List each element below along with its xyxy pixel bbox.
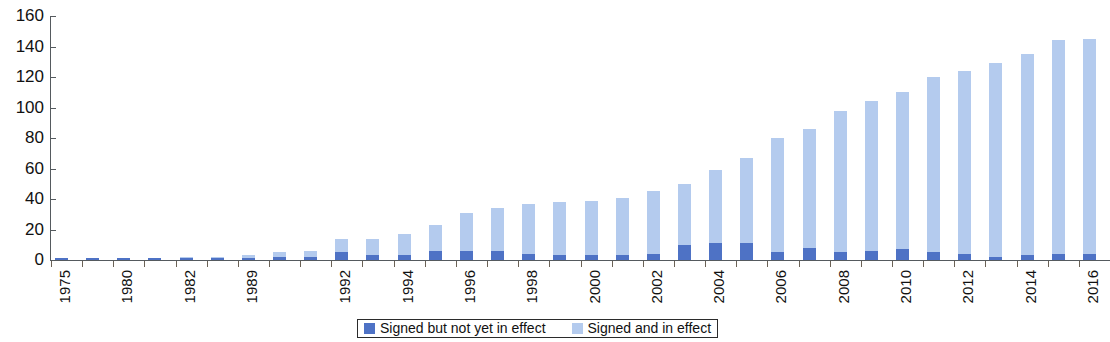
bar-segment-signed-in-effect	[522, 204, 535, 254]
x-axis-tick	[144, 261, 145, 267]
bar-group[interactable]	[740, 158, 753, 260]
x-axis-tick	[612, 261, 613, 267]
bar-group[interactable]	[958, 71, 971, 260]
bar-group[interactable]	[491, 208, 504, 260]
bar-group[interactable]	[1052, 40, 1065, 260]
x-axis-tick	[985, 261, 986, 267]
bar-group[interactable]	[460, 213, 473, 260]
bar-group[interactable]	[989, 63, 1002, 260]
bar-segment-signed-not-in-effect	[771, 252, 784, 260]
x-axis-tick	[1079, 261, 1080, 267]
bar-group[interactable]	[553, 202, 566, 260]
bar-group[interactable]	[398, 234, 411, 260]
bar-segment-signed-in-effect	[491, 208, 504, 251]
x-axis-tick-label: 1980	[119, 270, 134, 303]
bar-segment-signed-in-effect	[335, 239, 348, 253]
bar-segment-signed-not-in-effect	[803, 248, 816, 260]
x-axis-tick	[1048, 261, 1049, 267]
bar-segment-signed-not-in-effect	[834, 252, 847, 260]
x-axis-tick	[331, 261, 332, 267]
bar-segment-signed-in-effect	[927, 77, 940, 252]
bar-group[interactable]	[709, 170, 722, 260]
bar-segment-signed-in-effect	[803, 129, 816, 248]
bar-group[interactable]	[896, 92, 909, 260]
bar-group[interactable]	[335, 239, 348, 260]
bar-segment-signed-in-effect	[647, 191, 660, 254]
bar-segment-signed-in-effect	[834, 111, 847, 253]
x-axis-tick	[238, 261, 239, 267]
x-axis-tick-label: 2004	[711, 270, 726, 303]
bar-segment-signed-not-in-effect	[709, 243, 722, 260]
legend-item-signed-not-in-effect[interactable]: Signed but not yet in effect	[364, 321, 546, 335]
bar-group[interactable]	[585, 201, 598, 260]
bar-segment-signed-in-effect	[398, 234, 411, 255]
bar-segment-signed-in-effect	[585, 201, 598, 256]
bar-group[interactable]	[273, 252, 286, 260]
legend-label-signed: Signed but not yet in effect	[380, 321, 546, 335]
bar-segment-signed-in-effect	[740, 158, 753, 243]
x-axis-tick-label: 2010	[897, 270, 912, 303]
bar-group[interactable]	[616, 197, 629, 260]
x-axis-tick-label: 2012	[960, 270, 975, 303]
bar-segment-signed-in-effect	[553, 202, 566, 255]
x-axis-tick-label: 2014	[1022, 270, 1037, 303]
x-axis-tick	[518, 261, 519, 267]
x-axis-tick-label: 2006	[773, 270, 788, 303]
bar-group[interactable]	[304, 251, 317, 260]
x-axis-tick	[861, 261, 862, 267]
x-axis-tick	[51, 261, 52, 267]
bar-segment-signed-in-effect	[1052, 40, 1065, 254]
bar-group[interactable]	[865, 101, 878, 260]
x-axis-tick	[705, 261, 706, 267]
x-axis-tick-label: 1982	[181, 270, 196, 303]
x-axis-tick	[767, 261, 768, 267]
bar-group[interactable]	[678, 184, 691, 260]
x-axis-tick-label: 1989	[243, 270, 258, 303]
x-axis-tick	[674, 261, 675, 267]
x-axis-tick	[799, 261, 800, 267]
bar-group[interactable]	[771, 138, 784, 260]
bar-group[interactable]	[647, 191, 660, 260]
bar-group[interactable]	[1083, 39, 1096, 260]
bar-segment-signed-in-effect	[989, 63, 1002, 257]
bar-segment-signed-not-in-effect	[740, 243, 753, 260]
x-axis-tick	[643, 261, 644, 267]
x-axis-tick	[923, 261, 924, 267]
stacked-bar-chart: 020406080100120140160 197519801982198919…	[0, 0, 1110, 342]
bar-group[interactable]	[1021, 54, 1034, 260]
x-axis-tick-label: 2008	[835, 270, 850, 303]
x-axis-tick-label: 2016	[1084, 270, 1099, 303]
legend-item-signed-in-effect[interactable]: Signed and in effect	[572, 321, 712, 335]
x-axis-tick	[1017, 261, 1018, 267]
bar-group[interactable]	[834, 111, 847, 260]
x-axis-tick	[269, 261, 270, 267]
bar-group[interactable]	[366, 239, 379, 260]
x-axis-tick	[456, 261, 457, 267]
x-axis-tick	[207, 261, 208, 267]
x-axis-tick	[113, 261, 114, 267]
bar-segment-signed-not-in-effect	[335, 252, 348, 260]
x-axis-tick	[82, 261, 83, 267]
bar-group[interactable]	[522, 204, 535, 260]
bar-segment-signed-in-effect	[1021, 54, 1034, 255]
x-axis-tick-label: 1992	[337, 270, 352, 303]
bar-segment-signed-in-effect	[429, 225, 442, 251]
bar-segment-signed-not-in-effect	[429, 251, 442, 260]
bar-group[interactable]	[429, 225, 442, 260]
bar-segment-signed-in-effect	[1083, 39, 1096, 254]
bar-segment-signed-not-in-effect	[927, 252, 940, 260]
x-axis-tick	[549, 261, 550, 267]
chart-legend: Signed but not yet in effect Signed and …	[357, 319, 718, 338]
x-axis-tick	[581, 261, 582, 267]
bar-group[interactable]	[927, 77, 940, 260]
bar-segment-signed-not-in-effect	[678, 245, 691, 260]
legend-swatch-icon-signed	[364, 323, 375, 334]
x-axis-tick	[736, 261, 737, 267]
x-axis-line	[50, 260, 1110, 261]
x-axis-tick	[300, 261, 301, 267]
x-axis-tick	[954, 261, 955, 267]
x-axis-tick	[892, 261, 893, 267]
x-axis-tick-label: 1998	[524, 270, 539, 303]
bar-group[interactable]	[803, 129, 816, 260]
x-axis-tick-label: 1996	[461, 270, 476, 303]
